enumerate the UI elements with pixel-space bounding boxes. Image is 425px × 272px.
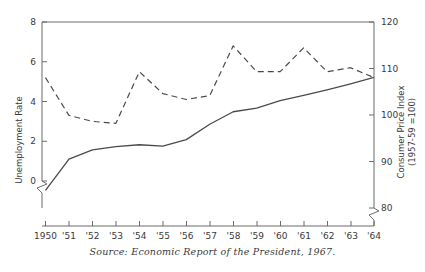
x-ticklabel-1950: 1950: [34, 231, 57, 241]
left-ticklabel-6: 6: [30, 57, 36, 67]
x-ticklabel-1960: '60: [274, 231, 288, 241]
source-caption: Source: Economic Report of the President…: [0, 246, 425, 257]
x-ticklabel-1957: '57: [203, 231, 217, 241]
x-ticklabel-1952: '52: [86, 231, 100, 241]
right-ticklabel-120: 120: [381, 17, 398, 27]
right-axis-title-line1: Consumer Price Index: [396, 86, 406, 179]
x-ticklabel-1953: '53: [109, 231, 123, 241]
axis-lines: [37, 22, 379, 226]
x-ticklabel-1954: '54: [133, 231, 147, 241]
left-ticklabel-4: 4: [30, 97, 36, 107]
axis-break-right-icon: [369, 208, 379, 220]
axis-break-left-icon: [37, 181, 47, 193]
chart-figure: 8 6 4 2 0 120 110 100 90 80 1950 '51 '52…: [0, 0, 425, 272]
x-ticklabel-1963: '63: [344, 231, 358, 241]
right-ticklabel-80: 80: [381, 203, 393, 213]
x-ticklabel-1958: '58: [227, 231, 241, 241]
left-axis-title: Unemployment Rate: [14, 96, 24, 184]
x-ticklabel-1961: '61: [297, 231, 311, 241]
x-ticklabel-1956: '56: [180, 231, 194, 241]
x-ticklabel-1951: '51: [62, 231, 76, 241]
left-ticklabel-0: 0: [30, 176, 36, 186]
x-ticklabel-1964: '64: [367, 231, 381, 241]
right-ticklabel-110: 110: [381, 64, 398, 74]
right-ticklabel-90: 90: [381, 157, 393, 167]
source-caption-text: Source: Economic Report of the President…: [90, 246, 336, 257]
x-ticklabel-1962: '62: [321, 231, 335, 241]
x-ticklabel-1955: '55: [156, 231, 170, 241]
series-line-unemployment-rate: [46, 46, 375, 124]
right-axis-title-line2: (1957-59 =100): [407, 98, 417, 166]
x-axis-ticks: [46, 221, 375, 226]
right-axis-ticks: [369, 22, 374, 208]
left-axis-ticks: [42, 22, 47, 181]
x-ticklabel-1959: '59: [250, 231, 264, 241]
left-ticklabel-2: 2: [30, 136, 36, 146]
left-ticklabel-8: 8: [30, 17, 36, 27]
